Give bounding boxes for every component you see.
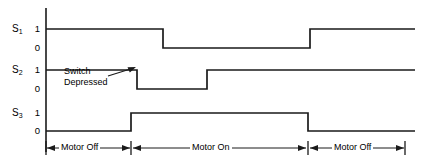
- signal-label-s2: S2: [12, 64, 23, 75]
- switch-depressed-arrow: [108, 67, 136, 76]
- level-label-s3-high: 1: [28, 107, 40, 118]
- signal-label-s2-text: S: [12, 64, 19, 75]
- phase-label-motor-off-1: Motor Off: [59, 142, 100, 152]
- level-label-s1-high: 1: [28, 23, 40, 34]
- level-label-s2-high: 1: [28, 64, 40, 75]
- level-label-s3-low: 0: [28, 125, 40, 136]
- signal-label-s3-text: S: [12, 107, 19, 118]
- switch-depressed-line1: Switch: [64, 66, 108, 77]
- waveform-s3: [46, 113, 415, 131]
- switch-depressed-line2: Depressed: [64, 77, 108, 88]
- signal-label-s1-sub: 1: [19, 28, 23, 35]
- waveform-s1: [46, 29, 415, 48]
- signal-label-s1: S1: [12, 23, 23, 34]
- level-label-s2-low: 0: [28, 83, 40, 94]
- signal-label-s2-sub: 2: [19, 69, 23, 76]
- signal-label-s3: S3: [12, 107, 23, 118]
- switch-depressed-annotation: Switch Depressed: [64, 66, 108, 88]
- timing-diagram-figure: S1 S2 S3 1 0 1 0 1 0 Switch Depressed Mo…: [0, 0, 421, 164]
- signal-label-s3-sub: 3: [19, 112, 23, 119]
- signal-label-s1-text: S: [12, 23, 19, 34]
- phase-label-motor-on: Motor On: [190, 142, 232, 152]
- level-label-s1-low: 0: [28, 42, 40, 53]
- phase-label-motor-off-2: Motor Off: [332, 142, 373, 152]
